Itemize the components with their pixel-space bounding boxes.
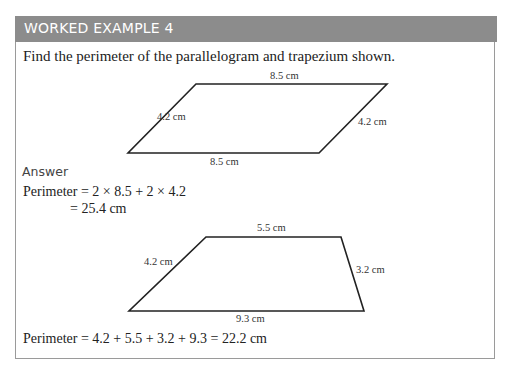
answer-line-1: Perimeter = 2 × 8.5 + 2 × 4.2 — [23, 184, 186, 200]
trapezium-left-label: 4.2 cm — [144, 256, 173, 267]
trapezium-bottom-label: 9.3 cm — [236, 313, 265, 324]
trapezium-shape — [129, 237, 364, 311]
answer-heading: Answer — [22, 164, 68, 179]
parallelogram-top-label: 8.5 cm — [270, 70, 299, 81]
parallelogram-left-label: 4.2 cm — [157, 111, 186, 122]
parallelogram-bottom-label: 8.5 cm — [210, 156, 239, 167]
answer-line-2: = 25.4 cm — [70, 201, 127, 217]
trapezium-top-label: 5.5 cm — [257, 222, 286, 233]
parallelogram-right-label: 4.2 cm — [358, 116, 387, 127]
trapezium-right-label: 3.2 cm — [356, 264, 385, 275]
final-perimeter: Perimeter = 4.2 + 5.5 + 3.2 + 9.3 = 22.2… — [23, 331, 267, 347]
